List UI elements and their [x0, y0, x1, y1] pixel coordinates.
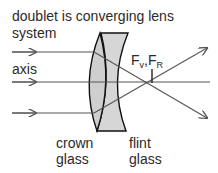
subscript-v: v	[140, 60, 145, 70]
subscript-r: R	[157, 60, 164, 70]
axis-label: axis	[12, 62, 37, 77]
focus-f-violet: F	[131, 52, 140, 68]
crown-glass-label-line-2: glass	[56, 152, 89, 167]
flint-glass-label-line-2: glass	[129, 152, 162, 167]
focus-f-red: F	[148, 52, 157, 68]
focus-label: Fv,FR	[131, 53, 163, 70]
title-line-1: doublet is converging lens	[12, 9, 174, 24]
flint-glass-label-line-1: flint	[129, 136, 151, 151]
title-line-2: system	[12, 26, 56, 41]
crown-glass-label-line-1: crown	[56, 136, 93, 151]
